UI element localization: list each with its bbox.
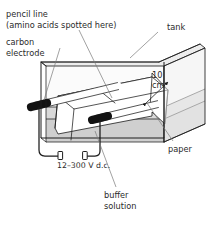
- label-paper: paper: [168, 144, 192, 154]
- label-power-supply: 12–300 V d.c.: [57, 161, 110, 170]
- label-carbon-electrode-line2: electrode: [6, 48, 45, 58]
- label-tank: tank: [167, 22, 185, 32]
- diagram-canvas: pencil line (amino acids spotted here) c…: [0, 0, 220, 225]
- label-carbon-electrode-line1: carbon: [6, 37, 34, 47]
- label-pencil-line: pencil line: [6, 9, 48, 19]
- label-dimension-value: 10: [152, 70, 162, 80]
- label-pencil-line-sub: (amino acids spotted here): [6, 20, 117, 30]
- label-buffer-line1: buffer: [104, 190, 129, 200]
- label-dimension-unit: cm: [152, 80, 165, 90]
- tank-front-bottom-bevel: [41, 138, 46, 142]
- terminal-connector-right: [83, 152, 88, 160]
- leader-tank: [130, 32, 158, 58]
- terminal-connector-left: [58, 152, 63, 160]
- electrophoresis-diagram: pencil line (amino acids spotted here) c…: [0, 0, 220, 225]
- label-buffer-line2: solution: [104, 201, 136, 211]
